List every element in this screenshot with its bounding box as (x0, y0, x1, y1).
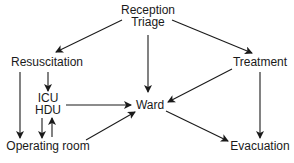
node-label: Triage (131, 15, 165, 29)
arrow-reception-to-resuscitation (56, 20, 122, 52)
node-icu-hdu: ICUHDU (35, 91, 61, 117)
node-operating-room: Operating room (6, 139, 89, 153)
node-evacuation: Evacuation (230, 139, 289, 153)
node-treatment: Treatment (233, 55, 288, 69)
arrow-reception-to-treatment (172, 20, 252, 53)
edges (20, 20, 260, 141)
node-label: HDU (35, 103, 61, 117)
node-label: Operating room (6, 139, 89, 153)
node-label: Resuscitation (11, 55, 83, 69)
node-label: Treatment (233, 55, 288, 69)
node-label: Evacuation (230, 139, 289, 153)
node-reception: ReceptionTriage (121, 3, 175, 29)
node-ward: Ward (136, 98, 164, 112)
arrow-ward-to-evacuation (166, 111, 228, 141)
node-label: Ward (136, 98, 164, 112)
arrow-operating-room-to-ward (86, 112, 135, 140)
patient-flow-diagram: ReceptionTriageResuscitationTreatmentICU… (0, 0, 294, 163)
node-resuscitation: Resuscitation (11, 55, 83, 69)
arrow-treatment-to-ward (168, 69, 232, 102)
